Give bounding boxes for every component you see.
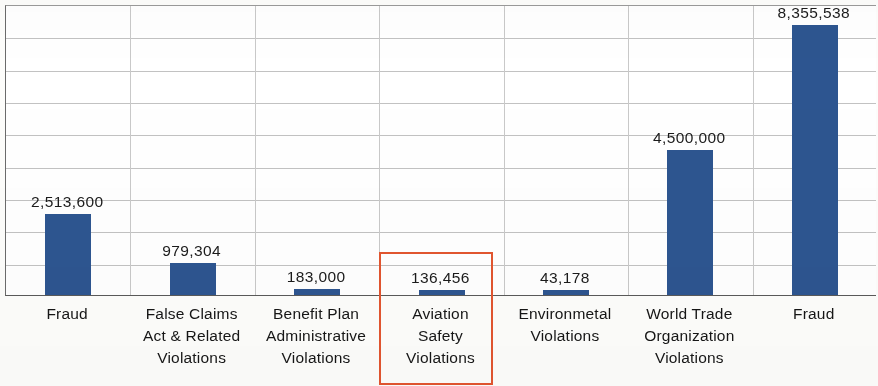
value-label-bar-world-trade-org: 4,500,000 — [627, 129, 751, 147]
value-label-bar-false-claims-act: 979,304 — [129, 242, 253, 260]
bar-chart: 2,513,600979,304183,000136,45643,1784,50… — [0, 0, 878, 386]
category-label-bar-aviation-safety[interactable]: AviationSafetyViolations — [378, 303, 502, 369]
category-label-bar-world-trade-org[interactable]: World TradeOrganizationViolations — [627, 303, 751, 369]
value-label-bar-fraud-1: 2,513,600 — [5, 193, 129, 211]
category-label-line: Aviation — [378, 303, 502, 325]
category-label-bar-environmetal[interactable]: EnvironmetalViolations — [503, 303, 627, 347]
vertical-gridline — [753, 6, 754, 295]
category-label-line: Benefit Plan — [254, 303, 378, 325]
vertical-gridline — [379, 6, 380, 295]
horizontal-gridline — [6, 38, 876, 39]
category-label-line: Violations — [129, 347, 253, 369]
category-axis-labels: FraudFalse ClaimsAct & RelatedViolations… — [5, 297, 876, 386]
category-label-line: Environmetal — [503, 303, 627, 325]
category-label-bar-false-claims-act[interactable]: False ClaimsAct & RelatedViolations — [129, 303, 253, 369]
category-label-line: Violations — [378, 347, 502, 369]
category-label-line: False Claims — [129, 303, 253, 325]
category-label-bar-fraud-2[interactable]: Fraud — [752, 303, 876, 325]
category-label-line: Safety — [378, 325, 502, 347]
horizontal-gridline — [6, 71, 876, 72]
bar-bar-fraud-1[interactable] — [45, 214, 91, 295]
horizontal-gridline — [6, 168, 876, 169]
value-label-bar-benefit-plan: 183,000 — [254, 268, 378, 286]
category-label-line: Administrative — [254, 325, 378, 347]
bar-bar-false-claims-act[interactable] — [170, 263, 216, 295]
vertical-gridline — [628, 6, 629, 295]
category-label-line: Organization — [627, 325, 751, 347]
category-label-line: Fraud — [5, 303, 129, 325]
vertical-gridline — [504, 6, 505, 295]
horizontal-gridline — [6, 232, 876, 233]
horizontal-gridline — [6, 200, 876, 201]
value-label-bar-environmetal: 43,178 — [503, 269, 627, 287]
horizontal-gridline — [6, 103, 876, 104]
bar-bar-benefit-plan[interactable] — [294, 289, 340, 295]
category-label-line: Fraud — [752, 303, 876, 325]
value-label-bar-aviation-safety: 136,456 — [378, 269, 502, 287]
category-label-line: Violations — [254, 347, 378, 369]
bar-bar-world-trade-org[interactable] — [667, 150, 713, 296]
bar-bar-fraud-2[interactable] — [792, 25, 838, 295]
horizontal-gridline — [6, 265, 876, 266]
category-label-line: Act & Related — [129, 325, 253, 347]
category-label-line: Violations — [503, 325, 627, 347]
value-label-bar-fraud-2: 8,355,538 — [752, 4, 876, 22]
category-label-line: World Trade — [627, 303, 751, 325]
vertical-gridline — [255, 6, 256, 295]
bar-bar-aviation-safety[interactable] — [419, 290, 465, 295]
category-label-line: Violations — [627, 347, 751, 369]
category-label-bar-fraud-1[interactable]: Fraud — [5, 303, 129, 325]
category-label-bar-benefit-plan[interactable]: Benefit PlanAdministrativeViolations — [254, 303, 378, 369]
bar-bar-environmetal[interactable] — [543, 290, 589, 295]
